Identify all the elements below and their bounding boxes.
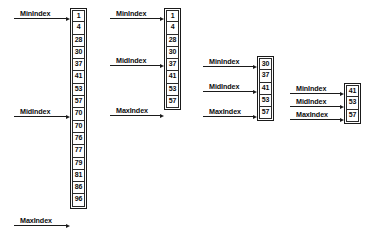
pointer-label: MaxIndex [290,110,328,119]
arrowhead-icon [66,224,70,228]
pointer-label: MidIndex [14,107,50,116]
array-cell: 76 [72,133,85,145]
pointer-line [203,66,253,67]
array-cell: 53 [259,95,272,107]
array-cell: 28 [166,35,179,47]
pointer-label: MaxIndex [110,106,148,115]
array-cell: 70 [72,121,85,133]
array-cell: 30 [259,58,272,70]
pointer-label: MidIndex [110,56,146,65]
array-cell: 41 [72,71,85,83]
pointer-midindex-stage-1: MidIndex [14,103,70,121]
arrowhead-icon [66,17,70,21]
array-cell: 86 [72,182,85,194]
array-column-3: 30 37 41 53 57 [257,56,274,121]
array-cell: 81 [72,170,85,182]
array-cell: 4 [166,22,179,34]
pointer-label: MinIndex [203,57,239,66]
array-cell: 30 [72,47,85,59]
array-cell: 30 [166,47,179,59]
array-column-1: 1 4 28 30 37 41 53 57 70 70 76 77 79 81 … [70,8,87,209]
pointer-label: MinIndex [14,9,50,18]
array-cell: 79 [72,158,85,170]
pointer-minindex-stage-2: MinIndex [110,5,164,23]
pointer-maxindex-stage-4: MaxIndex [290,106,344,124]
array-cell: 57 [72,96,85,108]
pointer-midindex-stage-3: MidIndex [203,78,257,96]
pointer-maxindex-stage-2: MaxIndex [110,102,164,120]
array-column-2: 1 4 28 30 37 41 53 57 [164,8,181,110]
pointer-label: MinIndex [110,9,146,18]
pointer-label: MaxIndex [203,107,241,116]
arrowhead-icon [160,114,164,118]
array-cell: 41 [346,85,359,97]
array-cell: 4 [72,22,85,34]
array-cell: 57 [259,107,272,119]
array-cell: 1 [166,10,179,22]
arrowhead-icon [340,118,344,122]
array-cell: 96 [72,194,85,206]
pointer-minindex-stage-3: MinIndex [203,53,257,71]
array-cell: 53 [166,84,179,96]
array-cell: 41 [259,83,272,95]
array-cell: 53 [72,84,85,96]
array-cell: 37 [72,59,85,71]
array-cell: 41 [166,71,179,83]
array-cell: 1 [72,10,85,22]
arrowhead-icon [253,90,257,94]
pointer-line [14,116,66,117]
array-cell: 37 [166,59,179,71]
arrowhead-icon [160,64,164,68]
pointer-label: MidIndex [290,97,326,106]
pointer-label: MaxIndex [14,216,52,225]
arrowhead-icon [160,17,164,21]
pointer-line [110,115,160,116]
pointer-line [203,116,253,117]
array-cell: 57 [346,110,359,122]
array-cell: 77 [72,145,85,157]
arrowhead-icon [253,115,257,119]
pointer-line [203,91,253,92]
pointer-midindex-stage-2: MidIndex [110,52,164,70]
pointer-line [14,225,66,226]
pointer-minindex-stage-1: MinIndex [14,5,70,23]
pointer-maxindex-stage-3: MaxIndex [203,103,257,121]
array-cell: 70 [72,108,85,120]
pointer-line [110,65,160,66]
array-cell: 37 [259,70,272,82]
pointer-maxindex-stage-1: MaxIndex [14,212,70,230]
pointer-label: MidIndex [203,82,239,91]
array-cell: 28 [72,35,85,47]
arrowhead-icon [66,115,70,119]
array-cell: 57 [166,96,179,108]
pointer-line [290,119,340,120]
pointer-line [110,18,160,19]
array-column-4: 41 53 57 [344,83,361,124]
pointer-line [14,18,66,19]
arrowhead-icon [253,65,257,69]
pointer-label: MinIndex [290,84,326,93]
array-cell: 53 [346,97,359,109]
